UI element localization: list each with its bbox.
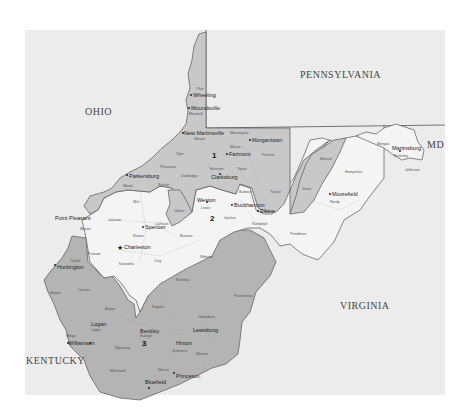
svg-text:Monongalia: Monongalia <box>230 131 249 135</box>
svg-text:Barbour: Barbour <box>239 190 253 194</box>
city-bluefield: Bluefield <box>145 379 166 385</box>
svg-text:Logan: Logan <box>91 328 101 332</box>
svg-text:Summers: Summers <box>172 349 188 353</box>
svg-text:Putnam: Putnam <box>88 252 100 256</box>
svg-text:Gilmer: Gilmer <box>174 209 185 213</box>
svg-text:Randolph: Randolph <box>252 222 267 226</box>
svg-text:Lewis: Lewis <box>201 206 210 210</box>
svg-text:Monroe: Monroe <box>196 352 208 356</box>
svg-text:Mason: Mason <box>80 227 91 231</box>
city-morgantown: Morgantown <box>252 137 282 143</box>
svg-text:Ohio: Ohio <box>196 87 204 91</box>
svg-text:Jefferson: Jefferson <box>405 168 420 172</box>
district-number-3: 3 <box>142 339 147 348</box>
svg-text:Preston: Preston <box>262 153 274 157</box>
city-charleston: Charleston <box>124 244 151 250</box>
svg-text:Taylor: Taylor <box>237 167 247 171</box>
city-hinton: Hinton <box>176 340 192 346</box>
svg-text:Cabell: Cabell <box>70 259 80 263</box>
svg-text:Ritchie: Ritchie <box>158 183 169 187</box>
svg-text:Morgan: Morgan <box>377 142 389 146</box>
svg-text:Mercer: Mercer <box>158 368 170 372</box>
svg-text:Kanawha: Kanawha <box>119 262 134 266</box>
svg-text:Mingo: Mingo <box>66 334 76 338</box>
svg-text:Hampshire: Hampshire <box>345 170 362 174</box>
state-label-pennsylvania: PENNSYLVANIA <box>300 69 381 80</box>
state-label-ohio: OHIO <box>85 106 112 117</box>
city-moorefield: Moorefield <box>332 191 358 197</box>
city-new-martinsville: New Martinsville <box>184 130 224 136</box>
district-number-1: 1 <box>212 151 217 160</box>
city-clarksburg: Clarksburg <box>211 174 238 180</box>
svg-text:Mineral: Mineral <box>320 157 332 161</box>
svg-text:Pendleton: Pendleton <box>290 232 306 236</box>
city-moundsville: Moundsville <box>191 105 220 111</box>
wv-district-map: OHIO PENNSYLVANIA MD VIRGINIA KENTUCKY 1… <box>0 0 468 420</box>
svg-text:Pleasants: Pleasants <box>160 165 176 169</box>
city-parkersburg: Parkersburg <box>129 173 159 179</box>
svg-text:Braxton: Braxton <box>180 234 192 238</box>
svg-text:Marion: Marion <box>230 145 241 149</box>
svg-text:Berkeley: Berkeley <box>394 154 408 158</box>
svg-text:Hardy: Hardy <box>330 200 340 204</box>
city-weston: Weston <box>197 197 216 203</box>
svg-text:Greenbrier: Greenbrier <box>198 315 216 319</box>
svg-text:Wyoming: Wyoming <box>115 346 130 350</box>
svg-text:Jackson: Jackson <box>108 218 121 222</box>
city-huntington: Huntington <box>57 264 84 270</box>
capital-star-icon: ★ <box>117 244 123 251</box>
city-lewisburg: Lewisburg <box>193 327 218 333</box>
city-logan: Logan <box>91 321 106 327</box>
state-label-maryland: MD <box>427 139 444 150</box>
svg-text:Boone: Boone <box>105 307 115 311</box>
state-label-virginia: VIRGINIA <box>340 300 390 311</box>
svg-text:Wayne: Wayne <box>50 291 61 295</box>
city-williamson: Williamson <box>68 340 95 346</box>
city-elkins: Elkins <box>260 208 275 214</box>
district-number-2: 2 <box>210 214 215 223</box>
svg-text:Lincoln: Lincoln <box>78 288 89 292</box>
city-martinsburg: Martinsburg <box>392 145 421 151</box>
svg-text:Pocahontas: Pocahontas <box>234 294 253 298</box>
svg-text:McDowell: McDowell <box>110 369 126 373</box>
svg-text:Doddridge: Doddridge <box>181 174 198 178</box>
city-point-pleasant: Point Pleasant <box>55 215 91 221</box>
city-princeton: Princeton <box>176 373 199 379</box>
svg-text:Webster: Webster <box>200 255 214 259</box>
svg-text:Harrison: Harrison <box>210 167 224 171</box>
svg-text:Roane: Roane <box>133 234 144 238</box>
svg-text:Upshur: Upshur <box>224 216 236 220</box>
svg-text:Nicholas: Nicholas <box>176 278 190 282</box>
svg-text:Tucker: Tucker <box>270 190 282 194</box>
svg-text:Tyler: Tyler <box>176 152 185 156</box>
svg-text:Wood: Wood <box>123 184 132 188</box>
city-wheeling: Wheeling <box>193 92 216 98</box>
city-fairmont: Fairmont <box>229 151 251 157</box>
state-label-kentucky: KENTUCKY <box>26 355 85 366</box>
svg-text:Wirt: Wirt <box>133 200 139 204</box>
svg-text:Clay: Clay <box>154 259 161 263</box>
svg-text:Wetzel: Wetzel <box>194 137 205 141</box>
svg-text:Marshall: Marshall <box>189 112 203 116</box>
svg-text:Fayette: Fayette <box>152 305 164 309</box>
svg-text:Grant: Grant <box>302 187 311 191</box>
svg-text:Calhoun: Calhoun <box>155 222 168 226</box>
svg-text:Raleigh: Raleigh <box>140 334 152 338</box>
